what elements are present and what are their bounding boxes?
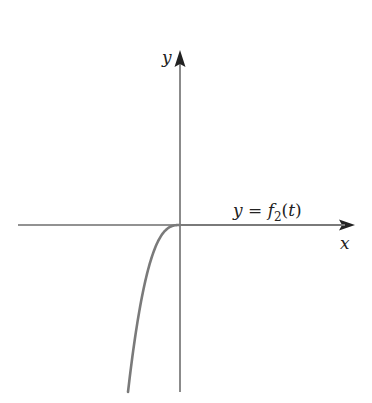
annotation-subscript: 2 (274, 210, 282, 224)
function-annotation: y = f2(t) (232, 200, 302, 224)
annotation-y: y (232, 200, 243, 220)
annotation-equals: = (243, 200, 268, 220)
annotation-paren-open: ( (282, 200, 289, 220)
function-curve (128, 225, 180, 392)
graph-canvas: y x y = f2(t) (0, 0, 372, 403)
x-axis-label: x (340, 233, 350, 253)
y-axis-label: y (161, 47, 172, 67)
annotation-paren-close: ) (295, 200, 302, 220)
